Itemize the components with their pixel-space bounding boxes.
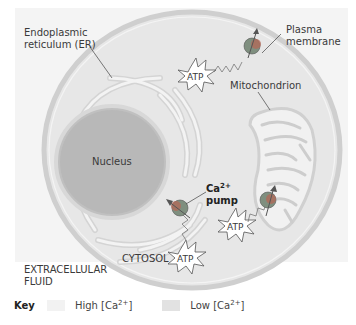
key-item-low: Low [Ca2+] xyxy=(162,300,244,311)
atp-label-top: ATP xyxy=(187,71,203,83)
mitochondrion-label: Mitochondrion xyxy=(230,80,301,92)
atp-label-bottom: ATP xyxy=(177,253,193,265)
low-ca-label: Low [Ca2+] xyxy=(190,300,244,311)
legend-key: Key High [Ca2+] Low [Ca2+] xyxy=(14,298,274,312)
plasma-membrane-label: Plasma membrane xyxy=(286,24,341,48)
atp-label-mid: ATP xyxy=(227,221,243,233)
key-item-high: High [Ca2+] xyxy=(47,300,132,311)
ca-pump-label: Ca2+ pump xyxy=(206,183,238,207)
nucleus-label: Nucleus xyxy=(92,156,132,168)
high-ca-swatch xyxy=(47,300,65,311)
cytosol-label: CYTOSOL xyxy=(122,253,169,265)
cell-diagram: Endoplasmic reticulum (ER) Plasma membra… xyxy=(0,0,356,325)
low-ca-swatch xyxy=(162,300,180,311)
extracellular-fluid-label: EXTRACELLULAR FLUID xyxy=(24,264,107,288)
high-ca-label: High [Ca2+] xyxy=(75,300,132,311)
key-title: Key xyxy=(14,300,35,311)
er-label: Endoplasmic reticulum (ER) xyxy=(24,27,96,51)
